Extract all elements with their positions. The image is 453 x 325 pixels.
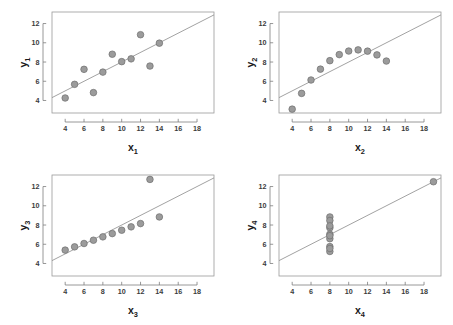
data-points	[327, 178, 437, 254]
data-point	[147, 63, 154, 70]
scatter-plot-4: 46810121416184681012x4y4	[227, 163, 453, 325]
data-point	[336, 51, 343, 58]
y-tick-label: 12	[32, 182, 40, 191]
x-tick-label: 8	[328, 287, 332, 296]
data-points	[289, 47, 390, 113]
data-point	[71, 81, 78, 88]
y-tick-label: 8	[263, 58, 267, 67]
regression-line	[279, 178, 441, 261]
data-point	[345, 48, 352, 55]
data-point	[355, 47, 362, 54]
data-point	[147, 176, 154, 183]
scatter-panel-4: 46810121416184681012x4y4	[227, 163, 453, 325]
data-point	[308, 77, 315, 84]
x-tick-label: 18	[420, 287, 428, 296]
data-point	[118, 58, 125, 65]
x-tick-label: 10	[118, 124, 126, 133]
data-point	[137, 31, 144, 38]
y-tick-label: 4	[263, 96, 267, 105]
x-axis-title: x1	[128, 141, 138, 156]
data-point	[327, 223, 334, 230]
x-tick-label: 10	[118, 287, 126, 296]
x-tick-label: 14	[382, 287, 390, 296]
scatter-panel-2: 46810121416184681012x2y2	[227, 0, 453, 162]
x-tick-label: 6	[309, 124, 313, 133]
y-tick-label: 6	[36, 77, 40, 86]
data-point	[156, 40, 163, 47]
x-tick-label: 16	[174, 124, 182, 133]
x-tick-label: 16	[174, 287, 182, 296]
y-tick-label: 10	[32, 201, 40, 210]
y-axis-title: y1	[17, 58, 32, 68]
x-tick-label: 14	[382, 124, 390, 133]
scatter-plot-3: 46810121416184681012x3y3	[0, 163, 226, 325]
x-tick-label: 10	[345, 124, 353, 133]
y-tick-label: 6	[263, 240, 267, 249]
data-point	[118, 227, 125, 234]
scatter-plot-2: 46810121416184681012x2y2	[227, 0, 453, 162]
x-tick-label: 6	[82, 287, 86, 296]
x-tick-label: 8	[328, 124, 332, 133]
x-tick-label: 10	[345, 287, 353, 296]
regression-line	[279, 15, 441, 98]
y-tick-label: 10	[259, 38, 267, 47]
data-point	[109, 51, 116, 58]
y-axis-title: y3	[17, 221, 32, 231]
scatter-panel-3: 46810121416184681012x3y3	[0, 163, 226, 325]
x-tick-label: 8	[101, 124, 105, 133]
data-point	[430, 178, 437, 185]
y-axis-title: y2	[244, 58, 259, 68]
y-tick-label: 10	[259, 201, 267, 210]
x-tick-label: 8	[101, 287, 105, 296]
data-point	[383, 58, 390, 65]
y-tick-label: 12	[259, 182, 267, 191]
x-tick-label: 16	[401, 287, 409, 296]
data-point	[71, 244, 78, 251]
x-axis-title: x4	[355, 304, 366, 319]
scatter-plot-1: 46810121416184681012x1y1	[0, 0, 226, 162]
y-tick-label: 6	[263, 77, 267, 86]
y-tick-label: 4	[36, 259, 40, 268]
data-point	[100, 234, 107, 241]
y-tick-label: 6	[36, 240, 40, 249]
x-tick-label: 6	[309, 287, 313, 296]
data-point	[109, 230, 116, 237]
x-tick-label: 12	[137, 124, 145, 133]
y-tick-label: 4	[263, 259, 267, 268]
data-point	[62, 95, 69, 102]
x-tick-label: 6	[82, 124, 86, 133]
data-point	[128, 224, 135, 231]
data-point	[289, 106, 296, 113]
scatter-panel-1: 46810121416184681012x1y1	[0, 0, 226, 162]
x-tick-label: 4	[290, 124, 294, 133]
data-point	[364, 48, 371, 55]
x-tick-label: 18	[193, 124, 201, 133]
data-point	[81, 66, 88, 73]
data-point	[317, 66, 324, 73]
data-point	[298, 90, 305, 97]
data-point	[128, 56, 135, 63]
data-point	[374, 52, 381, 59]
x-tick-label: 4	[63, 287, 67, 296]
data-point	[327, 232, 334, 239]
y-tick-label: 8	[36, 221, 40, 230]
x-tick-label: 18	[420, 124, 428, 133]
y-axis-title: y4	[244, 220, 259, 231]
data-point	[62, 247, 69, 254]
x-tick-label: 12	[137, 287, 145, 296]
data-point	[90, 237, 97, 244]
y-tick-label: 4	[36, 96, 40, 105]
x-tick-label: 4	[63, 124, 67, 133]
x-tick-label: 4	[290, 287, 294, 296]
data-point	[90, 89, 97, 96]
data-point	[100, 69, 107, 76]
data-point	[327, 57, 334, 64]
data-point	[137, 220, 144, 227]
data-point	[327, 245, 334, 252]
data-point	[156, 214, 163, 221]
x-tick-label: 14	[155, 124, 163, 133]
x-tick-label: 14	[155, 287, 163, 296]
x-tick-label: 18	[193, 287, 201, 296]
data-points	[62, 176, 163, 253]
y-tick-label: 8	[263, 221, 267, 230]
